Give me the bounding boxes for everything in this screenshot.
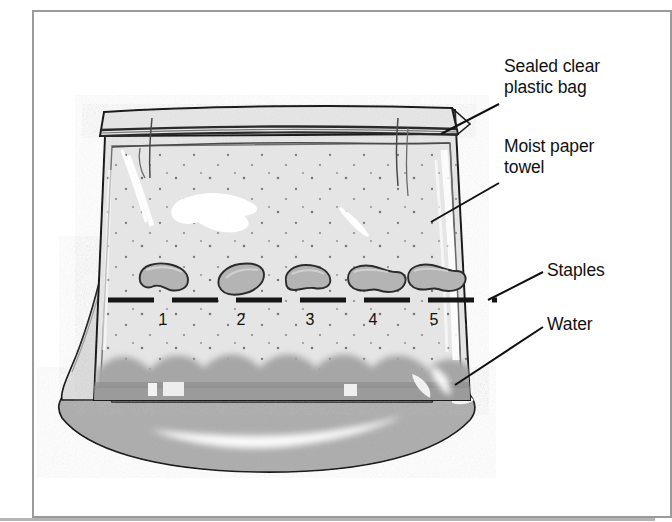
seed-number-2: 2 xyxy=(237,311,246,329)
callout-label-paper-towel: Moist paper towel xyxy=(504,136,594,178)
callout-label-staples: Staples xyxy=(547,260,605,281)
leader-staples xyxy=(488,272,543,300)
callout-label-water: Water xyxy=(547,314,593,335)
seed-number-3: 3 xyxy=(306,311,315,329)
callout-label-sealed-bag: Sealed clear plastic bag xyxy=(504,56,600,98)
seed-number-1: 1 xyxy=(159,311,168,329)
seed-3 xyxy=(286,265,331,290)
seed-number-4: 4 xyxy=(369,311,378,329)
seed-number-5: 5 xyxy=(430,311,439,329)
